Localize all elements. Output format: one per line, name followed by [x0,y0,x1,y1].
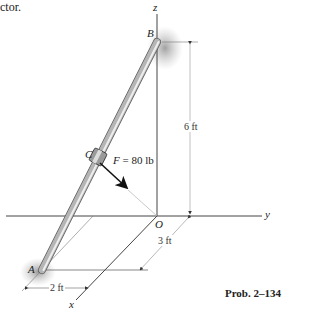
point-c-label: C [85,148,92,160]
point-b-label: B [147,27,154,39]
dimension-6ft-label: 6 ft [183,121,199,132]
force-value: = 80 lb [122,154,153,166]
force-symbol: F [113,154,120,166]
x-axis-label: x [69,298,74,310]
force-line-of-action [128,190,157,216]
x-axis-line [76,216,157,300]
dimension-3ft-label: 3 ft [157,235,173,246]
problem-label: Prob. 2–134 [225,287,281,299]
point-a-label: A [28,263,35,275]
force-arrow [100,163,126,187]
y-axis-label: y [265,208,270,220]
z-axis-label: z [153,1,157,13]
force-label: F = 80 lb [113,154,154,166]
origin-label: O [155,218,163,230]
dimension-2ft-label: 2 ft [49,282,65,293]
